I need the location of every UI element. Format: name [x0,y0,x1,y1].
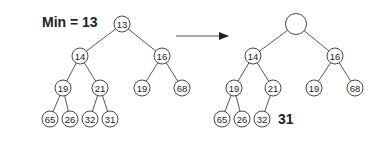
left-heap-node: 32 [82,111,98,127]
node-value: 16 [330,51,341,62]
right-heap-node: 14 [245,48,261,64]
heap-deletemin-diagram: Min = 13 1314161921196865263231 14161921… [0,0,384,147]
right-heap-node: 19 [306,80,322,96]
right-heap-node: 21 [265,80,281,96]
right-heap-tree: 141619211968652632 [214,14,363,128]
right-heap-node: 19 [226,80,242,96]
left-heap-node: 26 [62,111,78,127]
node-value: 68 [177,83,188,94]
node-value: 19 [229,83,240,94]
node-value: 21 [268,83,279,94]
left-heap-node: 65 [42,111,58,127]
diagram-svg: Min = 13 1314161921196865263231 14161921… [0,0,384,147]
left-heap-node: 31 [102,111,118,127]
left-heap-node: 21 [92,80,108,96]
node-value: 26 [65,114,76,125]
right-tree-edges [222,24,355,119]
right-heap-node: 68 [347,80,363,96]
left-heap-node: 19 [134,80,150,96]
detached-last-value: 31 [278,111,294,127]
left-heap-node: 14 [72,48,88,64]
node-circle [286,14,307,35]
right-heap-node [286,14,307,35]
node-value: 26 [237,114,248,125]
right-heap-node: 26 [234,111,250,127]
node-value: 16 [157,51,168,62]
right-heap-node: 32 [254,111,270,127]
left-heap-node: 68 [174,80,190,96]
node-value: 13 [117,19,128,30]
left-heap-node: 16 [154,48,170,64]
left-heap-node: 19 [55,80,71,96]
node-value: 65 [217,114,228,125]
node-value: 32 [257,114,268,125]
node-value: 21 [95,83,106,94]
node-value: 19 [309,83,320,94]
left-tree-edges [50,24,182,119]
right-heap-node: 65 [214,111,230,127]
left-heap-tree: 1314161921196865263231 [42,16,190,127]
node-value: 14 [248,51,259,62]
node-value: 32 [85,114,96,125]
node-value: 65 [45,114,56,125]
node-value: 19 [137,83,148,94]
left-heap-node: 13 [114,16,130,32]
right-heap-node: 16 [327,48,343,64]
min-title: Min = 13 [42,14,98,30]
node-value: 19 [58,83,69,94]
node-value: 14 [75,51,86,62]
node-value: 31 [105,114,116,125]
node-value: 68 [350,83,361,94]
